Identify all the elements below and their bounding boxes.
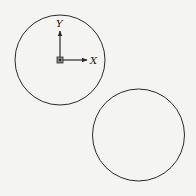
- coordinate-frame: Y X: [56, 18, 98, 66]
- origin-dot: [59, 59, 61, 61]
- x-axis-label: X: [89, 55, 98, 66]
- y-axis-label: Y: [56, 18, 64, 29]
- diagram-canvas: Y X: [0, 0, 196, 196]
- circle-b: [93, 89, 185, 181]
